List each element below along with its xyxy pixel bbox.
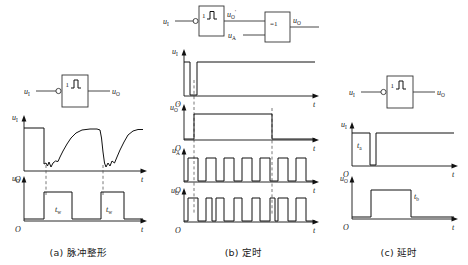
- panel-c-delay: 1 uI uO uI t O ta u: [330, 0, 468, 265]
- inverting-bubble-icon-b: [193, 19, 198, 24]
- waveform-a-output-xlabel: t: [141, 225, 144, 234]
- waveform-b-mid-xlabel: t: [313, 144, 316, 153]
- y-axis-arrow-b1: [182, 49, 187, 56]
- x-axis-arrow-c1: [452, 164, 459, 169]
- gate2-symbol-label-b: =1: [270, 20, 278, 28]
- waveform-b-output-origin: O: [175, 226, 181, 235]
- output-label-a: uO: [112, 87, 120, 97]
- y-axis-arrow-a1: [22, 115, 27, 122]
- waveform-c-output-origin: O: [343, 223, 349, 232]
- schmitt-trigger-hysteresis-icon-a: [71, 80, 81, 88]
- waveform-b-mid: uO' t O: [170, 102, 319, 153]
- delay-label-ta: ta: [357, 141, 362, 151]
- mid-output-label-b: uO': [227, 9, 236, 20]
- waveform-a-input-ylabel: uI: [12, 113, 18, 123]
- waveform-b-clock: uA t O: [172, 146, 319, 195]
- waveform-b-mid-trace: [184, 114, 315, 139]
- panel-b-timing: 1 uI uO' =1 uA uO uI: [157, 0, 330, 265]
- pulse-width-label-a-2: tw: [106, 205, 112, 215]
- x-axis-arrow-b4: [313, 220, 320, 225]
- second-input-label-b: uA: [228, 31, 236, 41]
- schmitt-trigger-hysteresis-icon-c: [396, 81, 406, 89]
- waveform-a-input-xlabel: t: [141, 175, 144, 184]
- waveform-b-input-ylabel: uI: [172, 47, 178, 57]
- y-axis-arrow-b2: [182, 104, 187, 111]
- y-axis-arrow-c1: [350, 122, 355, 129]
- x-axis-arrow-b3: [313, 180, 320, 185]
- y-axis-arrow-b3: [182, 148, 187, 155]
- pulse-width-label-a-1: tw: [55, 205, 61, 215]
- panel-b-graphics: 1 uI uO' =1 uA uO uI: [157, 0, 330, 240]
- inverting-bubble-icon-a: [56, 88, 61, 93]
- x-axis-arrow-b2: [313, 138, 320, 143]
- x-axis-arrow-b1: [313, 94, 320, 99]
- panel-c-graphics: 1 uI uO uI t O ta u: [330, 0, 468, 240]
- panel-a-pulse-shaping: 1 uI uO uI t O: [0, 0, 157, 265]
- panel-a-graphics: 1 uI uO uI t O: [0, 0, 157, 240]
- waveform-c-output: uO t O tb: [340, 174, 458, 232]
- waveform-b-input: uI t O: [172, 47, 319, 109]
- y-axis-arrow-a2: [22, 176, 27, 183]
- circuit-a: 1 uI uO: [24, 75, 120, 107]
- waveform-c-input-trace: [352, 133, 454, 165]
- waveform-c-input-xlabel: t: [452, 170, 455, 179]
- y-axis-arrow-b4: [182, 188, 187, 195]
- waveform-c-output-trace: [352, 190, 454, 217]
- waveform-c-input-ylabel: uI: [341, 120, 347, 130]
- circuit-b: 1 uI uO' =1 uA uO: [163, 6, 319, 42]
- input-label-a: uI: [24, 87, 30, 97]
- gate-symbol-label-c: 1: [391, 82, 395, 90]
- gate1-symbol-label-b: 1: [202, 12, 206, 20]
- output-label-b: uO: [293, 16, 301, 26]
- output-label-c: uO: [437, 88, 445, 98]
- waveform-b-output-trace: [184, 198, 315, 221]
- panel-c-caption: (c) 延时: [330, 245, 468, 259]
- schmitt-trigger-hysteresis-icon-b: [207, 12, 217, 20]
- waveform-c-input: uI t O ta: [341, 120, 458, 179]
- waveform-b-clock-trace: [184, 158, 315, 181]
- waveform-a-input: uI t O: [12, 113, 147, 184]
- waveform-b-input-xlabel: t: [313, 100, 316, 109]
- input-label-c: uI: [349, 88, 355, 98]
- inverting-bubble-icon-c: [381, 89, 386, 94]
- waveform-b-clock-xlabel: t: [313, 186, 316, 195]
- waveform-a-output: uO t O tw tw: [12, 174, 147, 234]
- waveform-b-input-trace: [184, 62, 315, 95]
- xor-gate-body-b: [265, 12, 290, 42]
- gate-symbol-label-a: 1: [66, 81, 70, 89]
- schmitt-gate-body-b: [199, 6, 224, 36]
- waveform-c-output-xlabel: t: [452, 223, 455, 232]
- panel-b-caption: (b) 定时: [157, 245, 330, 259]
- waveform-b-output: uO t O: [171, 186, 319, 235]
- panel-a-caption: (a) 脉冲整形: [0, 245, 157, 259]
- waveform-a-input-trace: [24, 128, 143, 167]
- circuit-c: 1 uI uO: [349, 76, 445, 108]
- x-axis-arrow-a1: [141, 169, 148, 174]
- waveform-b-output-xlabel: t: [313, 226, 316, 235]
- delay-label-tb: tb: [414, 192, 419, 202]
- waveform-a-output-origin: O: [15, 225, 21, 234]
- y-axis-arrow-c2: [350, 176, 355, 183]
- input-label-b: uI: [163, 17, 169, 27]
- waveform-a-output-trace: [24, 192, 143, 219]
